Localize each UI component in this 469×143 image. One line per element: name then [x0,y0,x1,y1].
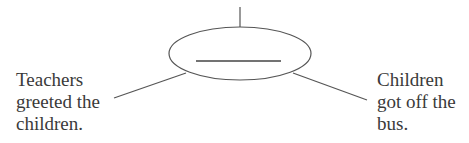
left-node-line-1: Teachers [16,69,100,91]
right-node-text: Children got off the bus. [377,69,456,135]
right-node-line-3: bus. [377,113,456,135]
center-ellipse [169,27,311,80]
left-connector-line [114,73,186,98]
left-node-text: Teachers greeted the children. [16,69,100,135]
left-node-line-3: children. [16,113,100,135]
right-node-line-1: Children [377,69,456,91]
right-node-line-2: got off the [377,91,456,113]
right-connector-line [293,73,367,100]
left-node-line-2: greeted the [16,91,100,113]
